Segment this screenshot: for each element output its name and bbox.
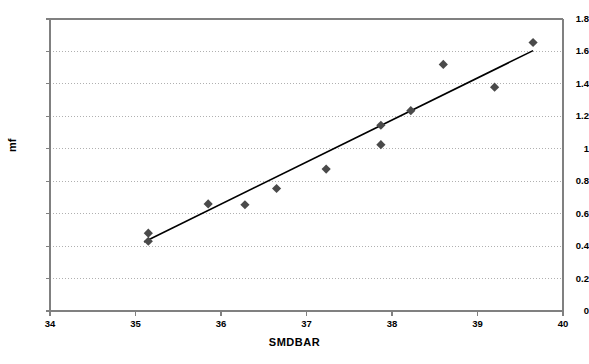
- data-point: [406, 106, 415, 115]
- plot-frame: [50, 19, 563, 311]
- scatter-chart: mf SMDBAR 00.20.40.60.811.21.41.61.8 343…: [0, 0, 589, 364]
- data-point: [272, 184, 281, 193]
- data-markers: [144, 38, 538, 246]
- data-point: [528, 38, 537, 47]
- data-point: [322, 164, 331, 173]
- data-point: [439, 60, 448, 69]
- data-point: [240, 200, 249, 209]
- data-point: [376, 140, 385, 149]
- data-point: [376, 121, 385, 130]
- data-point: [204, 199, 213, 208]
- gridlines: [50, 51, 563, 278]
- axis-tickmarks: [46, 19, 563, 316]
- data-point: [144, 229, 153, 238]
- plot-canvas: [0, 0, 589, 364]
